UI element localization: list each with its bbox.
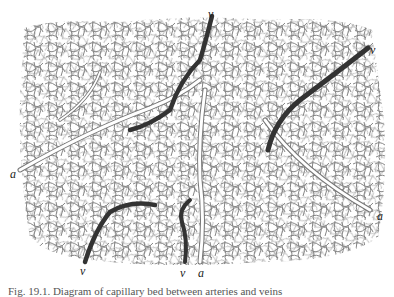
vein-label-bottom-mid: v	[180, 267, 185, 279]
artery-label-bottom: a	[198, 267, 204, 279]
vein-label-bottom-left: v	[80, 265, 85, 277]
artery-label-right: a	[377, 210, 383, 222]
artery-label-left: a	[10, 168, 16, 180]
vein-label-top: v	[208, 8, 213, 20]
vein-label-right: v	[370, 44, 375, 56]
figure-caption: Fig. 19.1. Diagram of capillary bed betw…	[8, 285, 394, 297]
